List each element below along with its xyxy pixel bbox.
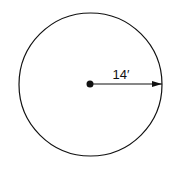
radius-label: 14′	[113, 67, 130, 82]
circle-diagram: 14′	[0, 0, 173, 173]
